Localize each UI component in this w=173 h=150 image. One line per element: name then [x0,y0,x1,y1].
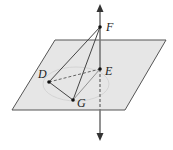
label-D: D [37,67,47,81]
point-F [98,25,102,29]
arrow-up-icon [97,4,104,12]
geometry-diagram: F E D G [0,0,173,150]
point-G [71,98,75,102]
arrow-down-icon [97,133,104,141]
label-F: F [105,20,114,34]
point-D [47,80,51,84]
label-E: E [104,64,113,78]
point-E [98,67,102,71]
label-G: G [77,96,86,110]
